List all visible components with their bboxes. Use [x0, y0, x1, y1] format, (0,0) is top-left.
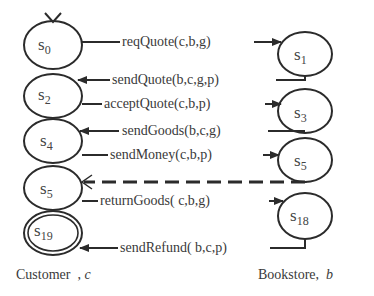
arrow-sendrefund-tail	[270, 239, 305, 248]
state-label-s2: s2	[38, 86, 51, 106]
state-label-s4: s4	[40, 132, 53, 152]
state-label-s19: s19	[34, 222, 53, 242]
message-label-sendquote: sendQuote(b,c,g,p)	[112, 73, 219, 87]
message-label-sendmoney: sendMoney(c,b,p)	[110, 148, 212, 162]
message-label-returngoods: returnGoods( c,b,g)	[100, 194, 210, 208]
state-label-s1: s1	[294, 46, 307, 66]
message-label-reqquote: reqQuote(c,b,g)	[122, 35, 211, 49]
state-node-customer-s5	[24, 166, 82, 210]
message-label-sendgoods: sendGoods(b,c,g)	[122, 124, 221, 138]
state-label-s5: s5	[40, 180, 53, 200]
state-label-s5-bookstore: s5	[294, 152, 307, 172]
state-node-customer-s19	[24, 211, 82, 255]
message-label-sendrefund: sendRefund( b,c,p)	[120, 241, 227, 255]
state-node-customer-s2	[24, 74, 82, 118]
state-node-customer-s4	[24, 119, 82, 163]
bookstore-caption: Bookstore, b	[258, 267, 333, 283]
state-node-customer-s0	[24, 21, 82, 69]
state-label-s0: s0	[38, 36, 51, 56]
state-label-s3: s3	[294, 104, 307, 124]
customer-caption: Customer , c	[16, 267, 91, 283]
message-label-acceptquote: acceptQuote(c,b,p)	[104, 97, 211, 111]
state-label-s18: s18	[290, 207, 309, 227]
